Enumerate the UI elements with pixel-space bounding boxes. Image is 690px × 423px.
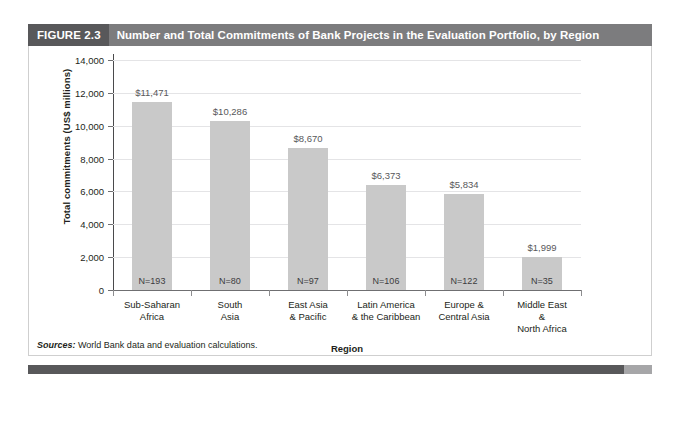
x-axis-labels: Sub-SaharanAfricaSouthAsiaEast Asia& Pac… [113,299,581,335]
bar-value-label: $6,373 [371,170,400,181]
bar-value-label: $10,286 [213,106,247,117]
bar-slot: $10,286N=80 [191,60,269,290]
sources-label: Sources: [37,340,76,350]
x-axis-tick [503,290,504,296]
y-axis-tick-label: 8,000 [80,153,104,164]
sources-note: Sources: World Bank data and evaluation … [37,340,257,350]
y-axis-tick-label: 14,000 [75,55,104,66]
bar[interactable]: $11,471N=193 [132,102,172,290]
bar[interactable]: $5,834N=122 [444,194,484,290]
bar-value-label: $8,670 [293,133,322,144]
bar-count-label: N=193 [139,276,166,286]
figure-body: Total commitments (US$ millions) 14,0001… [28,46,652,356]
plot-area: 14,00012,00010,0008,0006,0004,0002,0000 … [113,60,581,290]
bar[interactable]: $10,286N=80 [210,121,250,290]
footer-dark-segment [28,365,624,374]
y-axis-tick-label: 6,000 [80,186,104,197]
sources-text: World Bank data and evaluation calculati… [76,340,258,350]
y-axis-tick-label: 2,000 [80,252,104,263]
bar-count-label: N=97 [297,276,319,286]
y-axis-tick-label: 0 [99,285,104,296]
x-axis-category-label: Sub-SaharanAfrica [113,299,191,335]
bar-slot: $5,834N=122 [425,60,503,290]
x-axis-tick [191,290,192,296]
x-axis-tick [425,290,426,296]
x-axis-category-label: Latin America& the Caribbean [347,299,425,335]
y-axis-tick-label: 4,000 [80,219,104,230]
x-axis-tick [113,290,114,296]
plot-inner: 14,00012,00010,0008,0006,0004,0002,0000 … [113,60,581,290]
x-axis-tick [581,290,582,296]
bar-value-label: $5,834 [449,179,478,190]
bar-count-label: N=80 [219,276,241,286]
bar[interactable]: $1,999N=35 [522,257,562,290]
y-axis-title: Total commitments (US$ millions) [61,47,72,247]
x-axis-tick [269,290,270,296]
figure-container: FIGURE 2.3 Number and Total Commitments … [28,24,652,380]
footer-light-segment [624,365,652,374]
y-axis-tick-label: 10,000 [75,120,104,131]
x-axis-category-label: SouthAsia [191,299,269,335]
figure-footer-band [28,365,652,374]
bar-slot: $1,999N=35 [503,60,581,290]
bar[interactable]: $8,670N=97 [288,148,328,290]
y-axis-tick-label: 12,000 [75,87,104,98]
figure-header-band: FIGURE 2.3 Number and Total Commitments … [28,24,652,46]
figure-number-tag: FIGURE 2.3 [28,24,109,46]
x-axis-category-label: East Asia& Pacific [269,299,347,335]
x-axis-category-label: Middle East&North Africa [503,299,581,335]
bar-slot: $6,373N=106 [347,60,425,290]
bar-value-label: $11,471 [135,87,169,98]
x-axis-category-label: Europe &Central Asia [425,299,503,335]
bar-count-label: N=106 [373,276,400,286]
x-axis-tick [347,290,348,296]
bar-slot: $8,670N=97 [269,60,347,290]
bar[interactable]: $6,373N=106 [366,185,406,290]
bars-group: $11,471N=193$10,286N=80$8,670N=97$6,373N… [113,60,581,290]
bar-count-label: N=35 [531,276,553,286]
bar-slot: $11,471N=193 [113,60,191,290]
bar-value-label: $1,999 [527,242,556,253]
bar-count-label: N=122 [451,276,478,286]
figure-title: Number and Total Commitments of Bank Pro… [109,24,652,46]
